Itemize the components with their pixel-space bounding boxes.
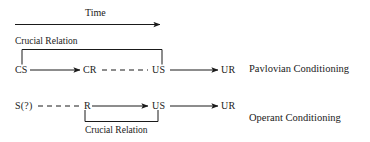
node-cs: CS	[15, 65, 28, 75]
node-us-operant: US	[152, 101, 165, 111]
node-s-unknown: S(?)	[15, 101, 32, 111]
paradigm-label-operant: Operant Conditioning	[249, 113, 341, 124]
node-cr: CR	[83, 65, 97, 75]
operant-crucial-relation-bracket	[85, 110, 158, 122]
node-r: R	[84, 101, 91, 111]
conditioning-diagram: Time Crucial Relation CS CR US UR Pavlov…	[0, 0, 370, 142]
node-ur-pavlovian: UR	[221, 65, 235, 75]
pavlovian-bracket-caption: Crucial Relation	[15, 37, 78, 47]
node-ur-operant: UR	[221, 101, 235, 111]
node-us-pavlovian: US	[152, 65, 165, 75]
time-axis-label: Time	[85, 8, 106, 18]
paradigm-label-pavlovian: Pavlovian Conditioning	[249, 64, 349, 75]
operant-bracket-caption: Crucial Relation	[85, 126, 148, 136]
pavlovian-crucial-relation-bracket	[22, 50, 162, 65]
